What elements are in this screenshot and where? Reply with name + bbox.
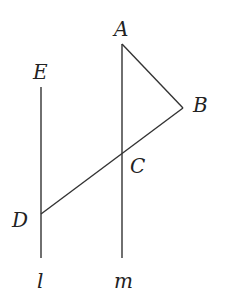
label-line-l: l: [37, 269, 43, 293]
geometry-diagram: A E B C D l m: [0, 0, 229, 301]
label-b: B: [192, 93, 208, 117]
label-a: A: [112, 17, 128, 41]
label-c: C: [130, 154, 145, 178]
segment-ab: [122, 44, 183, 108]
segment-bd: [41, 108, 183, 214]
label-d: D: [11, 208, 28, 232]
label-line-m: m: [114, 269, 133, 293]
label-e: E: [32, 60, 48, 84]
